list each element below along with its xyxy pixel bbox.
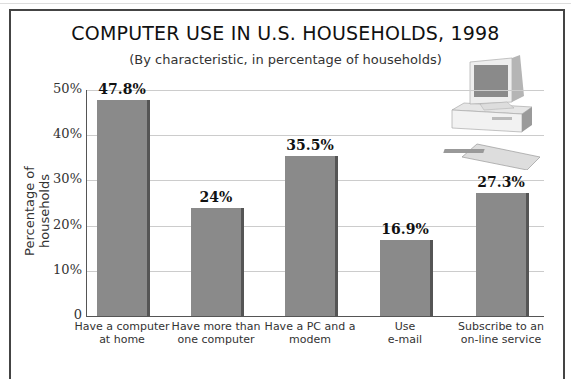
top-rule (0, 3, 571, 4)
value-label: 35.5% (265, 137, 355, 153)
value-label: 27.3% (456, 174, 546, 190)
bar (476, 193, 526, 316)
value-label: 47.8% (77, 81, 167, 97)
y-tick-label: 40% (34, 126, 82, 141)
desktop-computer-icon (432, 52, 542, 170)
category-label: Subscribe to anon-line service (446, 320, 556, 346)
category-label-line: modem (255, 333, 365, 346)
y-tick-label: 10% (34, 262, 82, 277)
category-label: Usee-mail (350, 320, 460, 346)
category-label: Have a PC and amodem (255, 320, 365, 346)
bar (97, 100, 147, 316)
category-label-line: Have a PC and a (255, 320, 365, 333)
chart-title: COMPUTER USE IN U.S. HOUSEHOLDS, 1998 (0, 22, 571, 44)
y-tick-label: 50% (34, 81, 82, 96)
y-axis (86, 90, 87, 317)
y-tick-label: 20% (34, 217, 82, 232)
bar (191, 208, 241, 316)
category-label-line: e-mail (350, 333, 460, 346)
bar (380, 240, 430, 316)
value-label: 24% (171, 189, 261, 205)
value-label: 16.9% (360, 221, 450, 237)
bar (285, 156, 335, 316)
category-label-line: Use (350, 320, 460, 333)
x-axis (86, 316, 544, 317)
category-label-line: on-line service (446, 333, 556, 346)
y-tick-label: 30% (34, 171, 82, 186)
category-label-line: Subscribe to an (446, 320, 556, 333)
